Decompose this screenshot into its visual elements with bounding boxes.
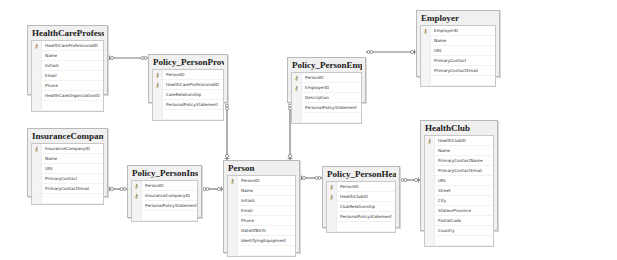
column-row[interactable]: Name bbox=[421, 36, 495, 46]
column-name: Initials bbox=[42, 61, 59, 70]
row-selector bbox=[153, 100, 163, 109]
table-employer[interactable]: Employer⚷EmployerIDNameURLPrimaryContact… bbox=[416, 10, 500, 77]
column-row[interactable]: PersonalPolicyStatement bbox=[292, 103, 361, 113]
row-selector bbox=[425, 166, 435, 175]
key-icon: ⚷ bbox=[134, 191, 138, 200]
table-policy_personinsurance[interactable]: Policy_PersonInsurance⚷PersonID⚷Insuranc… bbox=[127, 165, 202, 218]
column-row[interactable]: PrimaryContact bbox=[32, 174, 103, 184]
row-selector bbox=[228, 246, 238, 255]
column-name: PersonID bbox=[238, 176, 260, 185]
key-endpoint-icon bbox=[110, 187, 114, 192]
column-row[interactable]: ⚷PersonID bbox=[292, 73, 361, 83]
column-row[interactable]: ⚷PersonID bbox=[228, 176, 295, 186]
column-row[interactable]: DateOfBirth bbox=[228, 226, 295, 236]
infinity-endpoint-icon bbox=[141, 57, 147, 60]
table-policy_personprovider[interactable]: Policy_PersonProvider⚷PersonID⚷HealthCar… bbox=[148, 54, 228, 103]
empty-column-row[interactable] bbox=[32, 194, 103, 204]
column-row[interactable]: ⚷InsuranceCompanyID bbox=[132, 191, 197, 201]
empty-column-row[interactable] bbox=[153, 110, 223, 120]
empty-column-row[interactable] bbox=[32, 101, 103, 111]
table-policy_personhealthclub[interactable]: Policy_PersonHealthClub⚷PersonID⚷HealthC… bbox=[322, 166, 400, 228]
column-row[interactable]: PostalCode bbox=[425, 216, 493, 226]
column-row[interactable]: Phone bbox=[32, 81, 103, 91]
column-name: InsuranceCompanyID bbox=[142, 191, 190, 200]
relationship-person-policy_personinsurance[interactable] bbox=[202, 187, 223, 192]
column-row[interactable]: PrimaryContactEmail bbox=[32, 184, 103, 194]
column-row[interactable]: PrimaryContact bbox=[421, 56, 495, 66]
column-row[interactable]: ⚷PersonID bbox=[327, 182, 395, 192]
column-list: ⚷HealthClubIDNamePrimaryContactNamePrima… bbox=[424, 135, 494, 247]
column-row[interactable]: ⚷EmployerID bbox=[292, 83, 361, 93]
column-row[interactable]: ⚷HealthClubID bbox=[425, 136, 493, 146]
column-row[interactable]: ⚷HealthCareProfessionalID bbox=[32, 41, 103, 51]
primary-key-gutter: ⚷ bbox=[132, 191, 142, 200]
empty-column-row[interactable] bbox=[421, 76, 495, 86]
table-policy_personemployer[interactable]: Policy_PersonEmployer⚷PersonID⚷EmployerI… bbox=[287, 57, 366, 103]
column-row[interactable]: HealthCareOrganizationID bbox=[32, 91, 103, 101]
column-row[interactable]: PrimaryContactName bbox=[425, 156, 493, 166]
table-insurancecompany[interactable]: InsuranceCompany⚷InsuranceCompanyIDNameU… bbox=[27, 128, 108, 197]
empty-column-row[interactable] bbox=[132, 211, 197, 221]
column-name: PersonalPolicyStatement bbox=[337, 212, 392, 221]
column-row[interactable]: Street bbox=[425, 186, 493, 196]
relationship-healthclub-policy_personhealthclub[interactable] bbox=[400, 178, 420, 183]
table-person[interactable]: Person⚷PersonIDNameInitialsEmailPhoneDat… bbox=[223, 160, 300, 253]
column-row[interactable]: Initials bbox=[32, 61, 103, 71]
table-healthclub[interactable]: HealthClub⚷HealthClubIDNamePrimaryContac… bbox=[420, 120, 498, 231]
table-healthcareprofessional[interactable]: HealthCareProfessional⚷HealthCareProfess… bbox=[27, 25, 108, 95]
column-row[interactable]: Description bbox=[292, 93, 361, 103]
column-row[interactable]: Country bbox=[425, 226, 493, 236]
column-row[interactable]: Email bbox=[228, 206, 295, 216]
column-row[interactable]: Name bbox=[32, 154, 103, 164]
empty-column-row[interactable] bbox=[425, 236, 493, 246]
column-row[interactable]: ⚷PersonID bbox=[132, 181, 197, 191]
column-row[interactable]: URL bbox=[32, 164, 103, 174]
column-row[interactable]: ClubRelationship bbox=[327, 202, 395, 212]
column-name: PersonID bbox=[142, 181, 164, 190]
column-name: Description bbox=[302, 93, 329, 102]
key-endpoint-icon bbox=[217, 187, 221, 192]
column-row[interactable]: PrimaryContactEmail bbox=[421, 66, 495, 76]
column-row[interactable]: PersonalPolicyStatement bbox=[153, 100, 223, 110]
column-row[interactable]: Name bbox=[228, 186, 295, 196]
relationship-employer-policy_personemployer[interactable] bbox=[366, 50, 416, 55]
relationship-person-policy_personhealthclub[interactable] bbox=[300, 176, 322, 181]
relationship-healthcareprofessional-policy_personprovider[interactable] bbox=[108, 56, 148, 61]
column-row[interactable]: ⚷HealthCareProfessionalID bbox=[153, 80, 223, 90]
relationship-insurancecompany-policy_personinsurance[interactable] bbox=[108, 187, 127, 192]
empty-column-row[interactable] bbox=[228, 246, 295, 256]
empty-column-row[interactable] bbox=[292, 113, 361, 123]
column-row[interactable]: PrimaryContactEmail bbox=[425, 166, 493, 176]
column-row[interactable]: StateorProvince bbox=[425, 206, 493, 216]
column-row[interactable]: Email bbox=[32, 71, 103, 81]
column-name: PrimaryContactEmail bbox=[435, 166, 482, 175]
relationship-policy_personprovider-person[interactable] bbox=[225, 103, 230, 160]
column-name: Name bbox=[42, 154, 57, 163]
column-name: Street bbox=[435, 186, 451, 195]
column-row[interactable]: ⚷InsuranceCompanyID bbox=[32, 144, 103, 154]
column-row[interactable]: IdentifyingEquipment bbox=[228, 236, 295, 246]
column-row[interactable]: ⚷PersonID bbox=[153, 70, 223, 80]
column-row[interactable]: Name bbox=[32, 51, 103, 61]
column-row[interactable]: CareRelationship bbox=[153, 90, 223, 100]
column-list: ⚷EmployerIDNameURLPrimaryContactPrimaryC… bbox=[420, 25, 496, 87]
column-row[interactable]: URL bbox=[421, 46, 495, 56]
column-name: ClubRelationship bbox=[337, 202, 375, 211]
column-row[interactable]: PersonalPolicyStatement bbox=[327, 212, 395, 222]
column-row[interactable]: ⚷EmployerID bbox=[421, 26, 495, 36]
column-row[interactable]: City bbox=[425, 196, 493, 206]
row-selector bbox=[425, 186, 435, 195]
column-row[interactable]: ⚷HealthClubID bbox=[327, 192, 395, 202]
column-name: HealthClubID bbox=[435, 136, 466, 145]
column-row[interactable]: PersonalPolicyStatement bbox=[132, 201, 197, 211]
column-row[interactable]: URL bbox=[425, 176, 493, 186]
column-name: EmployerID bbox=[431, 26, 458, 35]
column-row[interactable]: Name bbox=[425, 146, 493, 156]
table-title: Policy_PersonEmployer bbox=[291, 60, 362, 71]
empty-column-row[interactable] bbox=[327, 222, 395, 232]
column-row[interactable]: Initials bbox=[228, 196, 295, 206]
infinity-endpoint-icon bbox=[203, 188, 209, 191]
column-name: PersonID bbox=[302, 73, 324, 82]
column-row[interactable]: Phone bbox=[228, 216, 295, 226]
column-name: Name bbox=[431, 36, 446, 45]
